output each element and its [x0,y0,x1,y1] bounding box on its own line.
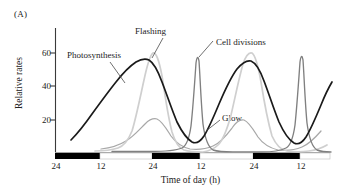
leader-line-glow [206,120,220,131]
leader-line-cell-divisions [199,41,213,57]
night-bar-2 [152,153,200,159]
night-bar-3 [253,153,300,159]
day-bar-3 [300,153,330,159]
day-bar-1 [100,153,152,159]
night-bar-1 [55,153,100,159]
leader-line-flashing [152,38,163,58]
curve-cell-divisions [112,56,331,152]
day-bar-2 [200,153,253,159]
figure-panel-a: (A) Relative rates Time of day (h) 60 40… [0,0,342,196]
plot-area [0,0,342,196]
